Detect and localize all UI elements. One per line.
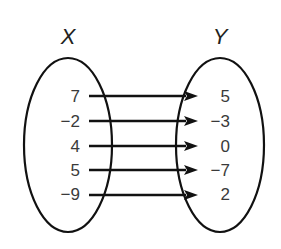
domain-value: −2	[61, 112, 80, 131]
domain-value: 4	[71, 137, 80, 156]
range-value: 0	[221, 137, 230, 156]
domain-value: 7	[71, 87, 80, 106]
mapping-arrow	[89, 141, 198, 151]
range-value: −3	[211, 112, 230, 131]
arrowhead-icon	[184, 91, 198, 101]
arrowhead-icon	[184, 165, 198, 175]
mapping-arrow	[89, 165, 198, 175]
domain-value: 5	[71, 161, 80, 180]
range-value: 2	[221, 185, 230, 204]
range-value: −7	[211, 161, 230, 180]
arrowhead-icon	[184, 190, 198, 200]
arrowhead-icon	[184, 116, 198, 126]
domain-value: −9	[61, 185, 80, 204]
range-value: 5	[221, 87, 230, 106]
range-set-label: Y	[213, 24, 229, 49]
arrowhead-icon	[184, 141, 198, 151]
domain-set-label: X	[60, 24, 77, 49]
mapping-diagram: X Y 7 −2 4 5 −9 5 −3 0 −7 2	[0, 0, 281, 249]
mapping-arrow	[89, 116, 198, 126]
